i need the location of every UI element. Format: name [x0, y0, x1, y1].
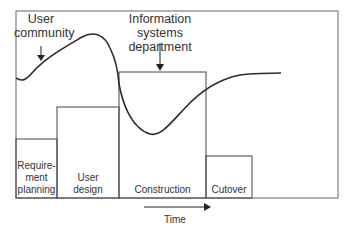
phase-box-construction [119, 72, 206, 198]
phase-label-line: User [57, 172, 119, 184]
phase-label-line: Cutover [206, 184, 252, 196]
phase-label-line: planning [16, 184, 57, 196]
phase-label-line: Require- [16, 160, 57, 172]
phase-label-cutover: Cutover [206, 184, 252, 196]
time-arrowhead-icon [204, 203, 211, 211]
annotation-line: department [105, 40, 215, 54]
annotation-user-community: User community [14, 12, 68, 40]
phase-label-line: Construction [119, 184, 206, 196]
annotation-is-department: Information systems department [105, 12, 215, 54]
phase-label-requirement-planning: Require- ment planning [16, 160, 57, 196]
phase-label-line: design [57, 184, 119, 196]
phase-label-construction: Construction [119, 184, 206, 196]
annotation-line: User [14, 12, 68, 26]
user-community-arrowhead-icon [37, 55, 45, 61]
axis-label-time: Time [150, 214, 200, 226]
phase-label-user-design: User design [57, 172, 119, 196]
phase-label-line: ment [16, 172, 57, 184]
is-dept-arrowhead-icon [156, 64, 164, 71]
annotation-line: community [14, 26, 68, 40]
annotation-line: Information systems [105, 12, 215, 40]
